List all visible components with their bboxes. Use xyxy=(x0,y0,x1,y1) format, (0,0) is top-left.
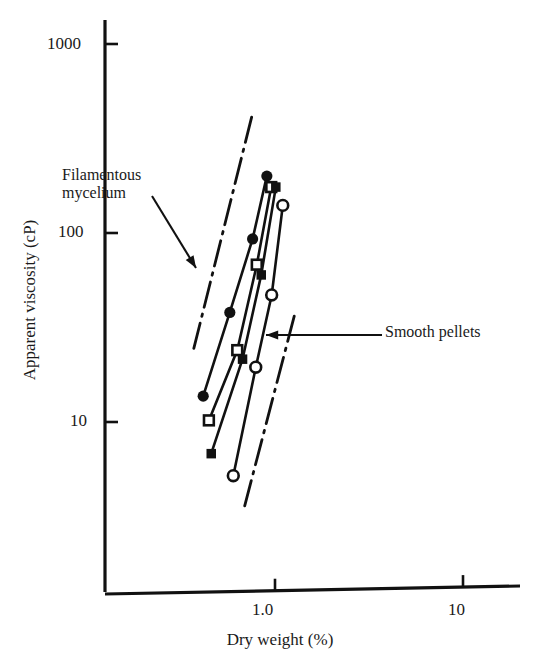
data-point-open-circle xyxy=(228,470,239,481)
y-tick-100: 100 xyxy=(58,222,84,242)
envelope-lines xyxy=(194,113,296,506)
data-point-open-square xyxy=(232,345,242,355)
data-point-filled-square xyxy=(206,449,216,459)
data-point-filled-circle xyxy=(261,171,272,182)
data-point-open-circle xyxy=(277,200,288,211)
series-line-open-square xyxy=(209,187,271,420)
data-point-open-square xyxy=(204,415,214,425)
x-axis-line xyxy=(105,586,520,594)
smooth-pellets-arrow-head xyxy=(266,330,278,339)
data-point-open-square xyxy=(252,260,262,270)
x-tick-1: 1.0 xyxy=(252,600,273,620)
data-point-filled-circle xyxy=(247,233,258,244)
annotation-filamentous-line2: mycelium xyxy=(62,184,126,201)
data-series xyxy=(198,171,289,482)
data-point-filled-circle xyxy=(224,307,235,318)
y-tick-10: 10 xyxy=(70,411,87,431)
data-point-filled-circle xyxy=(198,391,209,402)
y-axis-label: Apparent viscosity (cP) xyxy=(20,200,40,400)
x-axis-label: Dry weight (%) xyxy=(165,630,395,650)
data-point-filled-square xyxy=(256,270,266,280)
filamentous-mycelium-arrow-head xyxy=(186,255,196,268)
data-point-filled-square xyxy=(271,182,281,192)
annotation-filamentous-line1: Filamentous xyxy=(62,166,141,183)
annotation-smooth-pellets: Smooth pellets xyxy=(385,323,481,341)
filamentous-mycelium-arrow xyxy=(152,196,196,268)
envelope-line xyxy=(245,310,296,506)
axes xyxy=(105,20,520,594)
annotation-filamentous-mycelium: Filamentousmycelium xyxy=(62,166,141,202)
x-tick-10: 10 xyxy=(448,600,465,620)
data-point-open-circle xyxy=(250,362,261,373)
data-point-filled-square xyxy=(238,354,248,364)
data-point-open-circle xyxy=(266,290,277,301)
y-tick-1000: 1000 xyxy=(47,34,81,54)
envelope-line xyxy=(194,113,253,348)
